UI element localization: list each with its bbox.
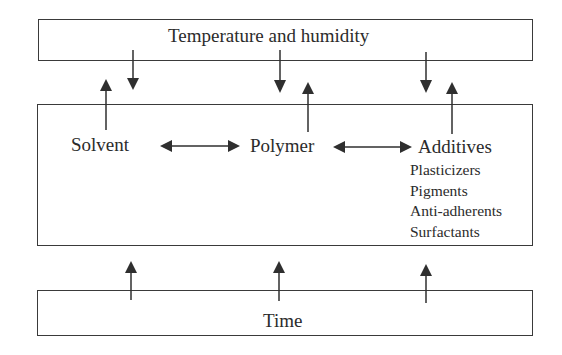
up-arrow-icon [100,79,112,130]
down-arrow-icon [127,50,139,90]
down-arrow-icon [420,52,432,93]
up-arrow-icon [125,261,137,300]
down-arrow-icon [274,50,286,93]
up-arrow-icon [420,264,432,303]
up-arrow-icon [446,82,458,134]
up-arrow-icon [302,82,314,132]
double-arrow-icon [160,140,240,152]
double-arrow-icon [333,141,412,153]
up-arrow-icon [273,261,285,301]
arrows-layer [0,0,562,355]
